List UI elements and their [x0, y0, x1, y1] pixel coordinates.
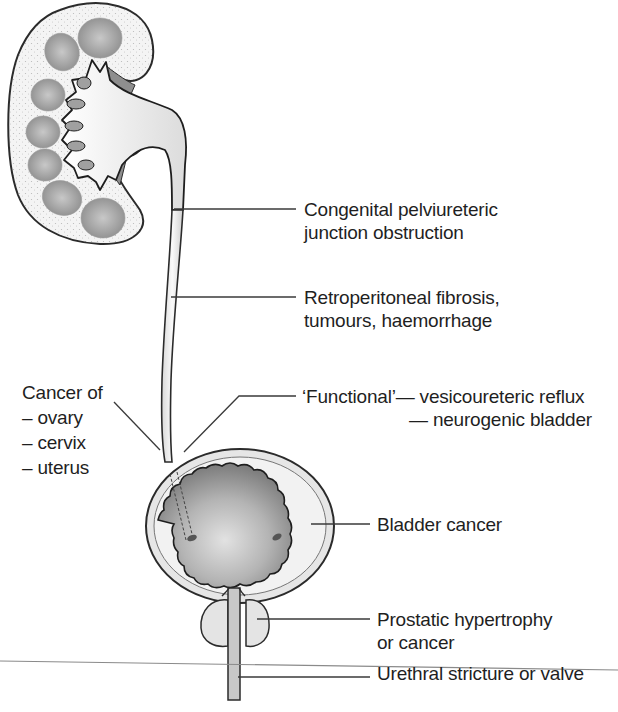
label-prostate-line1: Prostatic hypertrophy: [377, 608, 552, 631]
cancer-of-title: Cancer of: [22, 380, 103, 405]
cancer-of-cervix: – cervix: [22, 430, 103, 455]
leader-cancer-of: [114, 402, 160, 450]
label-functional: ‘Functional’— vesicoureteric reflux — ne…: [302, 385, 592, 431]
ureter: [162, 210, 183, 462]
label-cancer-of: Cancer of – ovary – cervix – uterus: [22, 380, 103, 480]
label-urethral-text: Urethral stricture or valve: [377, 662, 584, 685]
label-bladder-text: Bladder cancer: [377, 513, 502, 536]
label-retroperitoneal: Retroperitoneal fibrosis, tumours, haemo…: [304, 286, 500, 332]
label-functional-line1: ‘Functional’— vesicoureteric reflux: [302, 385, 592, 408]
cancer-of-ovary: – ovary: [22, 405, 103, 430]
bladder: [146, 449, 334, 603]
label-pui-line1: Congenital pelviureteric: [304, 198, 498, 221]
label-bladder-cancer: Bladder cancer: [377, 513, 502, 536]
urethra: [228, 588, 240, 700]
label-retro-line1: Retroperitoneal fibrosis,: [304, 286, 500, 309]
urinary-tract-illustration: [0, 0, 618, 712]
label-pui: Congenital pelviureteric junction obstru…: [304, 198, 498, 244]
label-functional-line2: — neurogenic bladder: [302, 408, 592, 431]
label-pui-line2: junction obstruction: [304, 221, 498, 244]
cancer-of-uterus: – uterus: [22, 455, 103, 480]
leader-functional: [184, 396, 296, 452]
leader-lines: [114, 209, 370, 677]
kidney: [8, 3, 186, 244]
label-prostate: Prostatic hypertrophy or cancer: [377, 608, 552, 654]
label-prostate-line2: or cancer: [377, 631, 552, 654]
label-retro-line2: tumours, haemorrhage: [304, 309, 500, 332]
label-urethral: Urethral stricture or valve: [377, 662, 584, 685]
